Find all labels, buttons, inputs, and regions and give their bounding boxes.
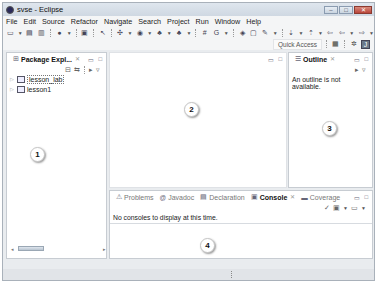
close-tab-icon[interactable]: ✕ xyxy=(290,194,295,200)
console-message: No consoles to display at this time. xyxy=(110,212,372,224)
tab-declaration[interactable]: ▤ Declaration xyxy=(197,193,247,201)
next-annotation-icon[interactable]: ⇣ xyxy=(287,29,296,37)
prev-annotation-icon[interactable]: ⇡ xyxy=(306,29,315,37)
scroll-right-icon[interactable]: ▸ xyxy=(103,246,106,252)
tree-item-lesson1[interactable]: ▷ lesson1 xyxy=(7,84,106,94)
pin-console-icon[interactable]: ✓ xyxy=(324,204,330,212)
quick-access-row: Quick Access ▦ ✲ J xyxy=(3,38,374,50)
outline-message: An outline is not available. xyxy=(289,74,372,92)
new-dropdown-icon[interactable]: ▼ xyxy=(18,30,23,36)
close-tab-icon[interactable]: ✕ xyxy=(330,56,335,62)
display-console-icon[interactable]: ▣ xyxy=(333,204,340,212)
editor-area: ▭ □ xyxy=(109,52,287,188)
horizontal-scrollbar[interactable]: ◂ ▸ xyxy=(11,245,106,252)
title-bar: svse - Eclipse – □ ✕ xyxy=(3,3,374,16)
grid-icon[interactable]: # xyxy=(200,29,209,37)
menu-source[interactable]: Source xyxy=(42,17,65,26)
open-perspective-icon[interactable]: ▦ xyxy=(331,40,340,49)
declaration-icon: ▤ xyxy=(200,193,207,201)
menu-navigate[interactable]: Navigate xyxy=(104,17,132,26)
outline-view: ☰ Outline ✕ ▭ □ ▸ ▿ An outline is not av… xyxy=(288,52,373,188)
tab-coverage[interactable]: ▬ Coverage xyxy=(298,194,343,201)
scroll-left-icon[interactable]: ◂ xyxy=(11,246,14,252)
console-icon: ▣ xyxy=(251,193,258,201)
save-icon[interactable]: ▤ xyxy=(26,29,35,37)
javadoc-icon: @ xyxy=(160,194,167,201)
minimize-button[interactable]: – xyxy=(324,6,338,14)
marker-1: 1 xyxy=(30,147,45,162)
new-class-icon[interactable]: ♣ xyxy=(175,29,184,37)
collapse-all-icon[interactable]: ⊟ xyxy=(65,66,71,74)
tab-package-explorer[interactable]: ⊞ Package Expl... ✕ xyxy=(10,55,83,63)
tab-javadoc[interactable]: @ Javadoc xyxy=(157,194,198,201)
maximize-view-icon[interactable]: □ xyxy=(98,56,102,63)
menu-window[interactable]: Window xyxy=(215,17,241,26)
menu-file[interactable]: File xyxy=(6,17,18,26)
debug-perspective-icon[interactable]: ✲ xyxy=(349,40,358,49)
close-button[interactable]: ✕ xyxy=(354,6,372,14)
pin-icon[interactable]: ✎ xyxy=(261,29,270,37)
console-panel: ⚠ Problems @ Javadoc ▤ Declaration ▣ Con… xyxy=(109,190,373,259)
minimize-editor-icon[interactable]: ▭ xyxy=(268,56,274,63)
marker-4: 4 xyxy=(200,238,215,253)
minimize-view-icon[interactable]: ▭ xyxy=(88,56,94,63)
coverage-icon[interactable]: G xyxy=(212,29,221,37)
coverage-icon: ▬ xyxy=(301,194,308,201)
status-bar xyxy=(3,269,374,280)
minimize-view-icon[interactable]: ▭ xyxy=(354,194,360,201)
menu-project[interactable]: Project xyxy=(167,17,189,26)
scroll-thumb[interactable] xyxy=(18,246,44,251)
focus-icon[interactable]: ▸ xyxy=(89,66,93,74)
menu-refactor[interactable]: Refactor xyxy=(71,17,98,26)
tab-outline[interactable]: ☰ Outline ✕ xyxy=(292,55,338,63)
marker-3: 3 xyxy=(322,121,337,136)
menu-bar: File Edit Source Refactor Navigate Searc… xyxy=(3,16,374,27)
focus-icon[interactable]: ▸ xyxy=(355,66,359,74)
menu-search[interactable]: Search xyxy=(138,17,161,26)
maximize-view-icon[interactable]: □ xyxy=(364,56,368,63)
maximize-editor-icon[interactable]: □ xyxy=(278,56,282,63)
package-explorer-view: ⊞ Package Expl... ✕ ▭ □ ⊟ ⇆ ▸ ▿ ▷ lesso xyxy=(6,52,107,259)
package-explorer-icon: ⊞ xyxy=(13,55,19,63)
cursor-icon[interactable]: ↖ xyxy=(98,29,107,37)
expand-icon[interactable]: ▷ xyxy=(10,86,15,92)
view-menu-icon[interactable]: ▿ xyxy=(362,66,366,74)
status-separator xyxy=(231,271,232,278)
terminal-icon[interactable]: ▣ xyxy=(81,29,90,37)
open-type-icon[interactable]: ◈ xyxy=(238,29,247,37)
eclipse-window: svse - Eclipse – □ ✕ File Edit Source Re… xyxy=(2,2,375,281)
open-console-icon[interactable]: ▭ xyxy=(351,204,358,212)
maximize-view-icon[interactable]: □ xyxy=(364,194,368,201)
workbench-area: ⊞ Package Expl... ✕ ▭ □ ⊟ ⇆ ▸ ▿ ▷ lesso xyxy=(3,50,374,269)
tab-problems[interactable]: ⚠ Problems xyxy=(113,193,157,201)
expand-icon[interactable]: ▷ xyxy=(10,76,15,82)
save-all-icon[interactable]: ▥ xyxy=(37,29,46,37)
project-icon xyxy=(17,86,25,93)
quick-access-input[interactable]: Quick Access xyxy=(273,39,322,50)
close-tab-icon[interactable]: ✕ xyxy=(75,56,80,62)
minimize-view-icon[interactable]: ▭ xyxy=(354,56,360,63)
link-editor-icon[interactable]: ⇆ xyxy=(74,66,80,74)
last-edit-icon[interactable]: ⇦ xyxy=(326,29,335,37)
back-icon[interactable]: ⇦ xyxy=(338,29,347,37)
menu-help[interactable]: Help xyxy=(246,17,261,26)
run-icon[interactable]: ◉ xyxy=(136,29,145,37)
project-icon xyxy=(17,76,25,83)
new-java-icon[interactable]: ♣ xyxy=(155,29,164,37)
view-menu-icon[interactable]: ▿ xyxy=(96,66,100,74)
java-perspective-icon[interactable]: J xyxy=(361,40,370,49)
window-title: svse - Eclipse xyxy=(17,5,63,14)
debug-icon[interactable]: ● xyxy=(55,29,64,37)
tab-console[interactable]: ▣ Console ✕ xyxy=(248,193,299,201)
marker-2: 2 xyxy=(184,102,199,117)
eclipse-logo-icon xyxy=(6,6,14,14)
menu-run[interactable]: Run xyxy=(195,17,208,26)
plus-icon[interactable]: ✣ xyxy=(116,29,125,37)
forward-icon[interactable]: ⇨ xyxy=(357,29,366,37)
tree-item-lesson-lab[interactable]: ▷ lesson_lab xyxy=(7,74,106,84)
outline-icon: ☰ xyxy=(295,55,301,63)
open-task-icon[interactable]: ▢ xyxy=(249,29,258,37)
maximize-button[interactable]: □ xyxy=(339,6,353,14)
menu-edit[interactable]: Edit xyxy=(24,17,36,26)
new-icon[interactable]: ▭ xyxy=(6,29,15,37)
